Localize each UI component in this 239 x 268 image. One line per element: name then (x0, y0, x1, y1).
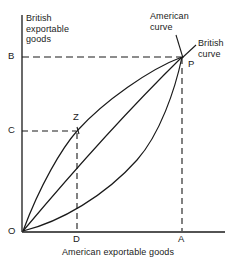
terms-of-trade-line (23, 57, 182, 231)
point-label-b: B (8, 51, 14, 61)
point-label-d: D (73, 234, 80, 244)
point-label-p: P (188, 59, 194, 69)
leader-line-british-curve (182, 45, 196, 58)
point-label-z: Z (73, 112, 79, 122)
point-label-a: A (178, 234, 184, 244)
british-offer-curve (23, 57, 182, 231)
offer-curves-figure: British exportable goods American export… (0, 0, 239, 268)
american-offer-curve (23, 57, 182, 231)
y-axis-title: British exportable goods (26, 13, 69, 45)
point-label-c: C (8, 125, 15, 135)
x-axis-title: American exportable goods (62, 247, 174, 258)
annotation-american-curve: American curve (150, 11, 189, 32)
annotation-british-curve: British curve (198, 38, 224, 59)
point-label-o: O (8, 226, 16, 236)
leader-line-american-curve (176, 35, 183, 58)
